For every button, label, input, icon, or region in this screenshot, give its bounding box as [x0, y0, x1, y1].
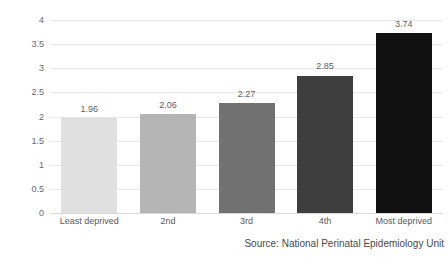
y-tick-label: 4 [6, 15, 44, 25]
bar[interactable] [297, 76, 353, 214]
bar-value-label: 2.06 [159, 100, 177, 110]
bar[interactable] [140, 114, 196, 213]
x-axis-label: Most deprived [364, 216, 443, 226]
y-tick-label: 0.5 [6, 184, 44, 194]
y-tick-label: 2.5 [6, 87, 44, 97]
y-tick-label: 2 [6, 112, 44, 122]
bar-slot: 2.27 [219, 20, 275, 213]
bar-value-label: 2.27 [238, 89, 256, 99]
bar-value-label: 1.96 [81, 104, 99, 114]
source-note: Source: National Perinatal Epidemiology … [0, 238, 444, 249]
bar[interactable] [376, 33, 432, 213]
bar-slot: 2.06 [140, 20, 196, 213]
y-tick-label: 0 [6, 208, 44, 218]
gridline [50, 213, 443, 214]
bar-slot: 1.96 [61, 20, 117, 213]
y-tick-label: 3.5 [6, 39, 44, 49]
x-axis-labels: Least deprived2nd3rd4thMost deprived [50, 216, 443, 232]
y-tick-label: 1 [6, 160, 44, 170]
x-axis-label: 2nd [129, 216, 208, 226]
x-axis-label: 4th [286, 216, 365, 226]
bar-slot: 3.74 [376, 20, 432, 213]
bar[interactable] [219, 103, 275, 213]
bar-slot: 2.85 [297, 20, 353, 213]
x-axis-label: Least deprived [50, 216, 129, 226]
bars-container: 1.962.062.272.853.74 [50, 20, 443, 213]
bar[interactable] [61, 118, 117, 213]
bar-chart: Infant deaths per 1,000 live births 00.5… [0, 0, 448, 269]
bar-value-label: 3.74 [395, 19, 413, 29]
y-tick-label: 3 [6, 63, 44, 73]
bar-value-label: 2.85 [316, 61, 334, 71]
y-tick-label: 1.5 [6, 136, 44, 146]
x-axis-label: 3rd [207, 216, 286, 226]
